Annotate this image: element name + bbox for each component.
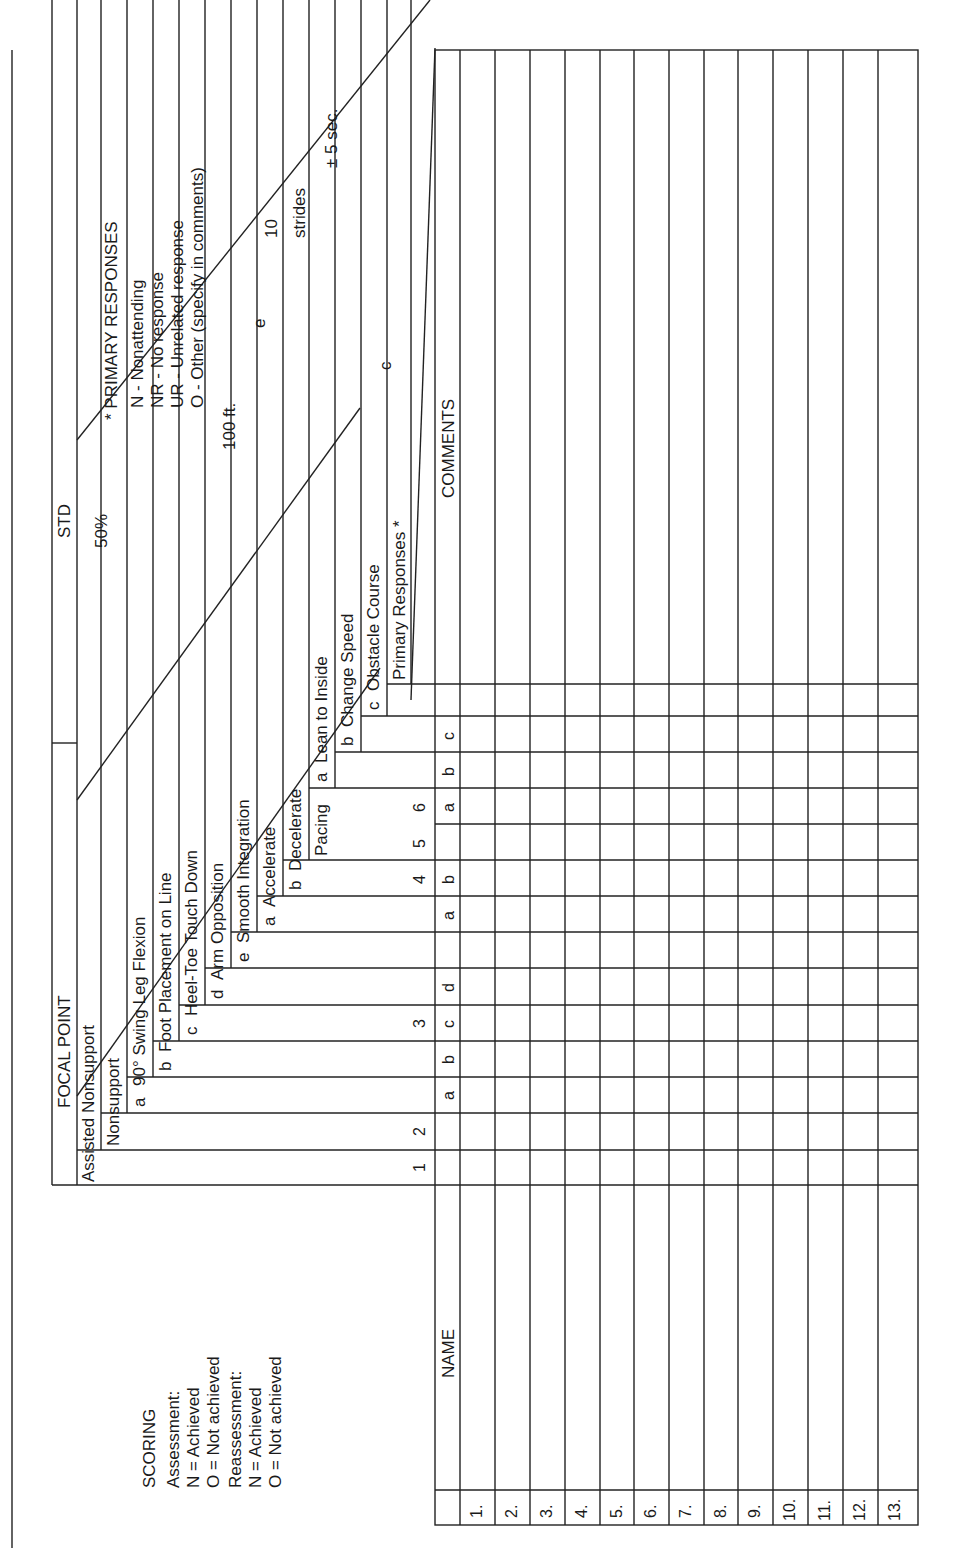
row-num-11: 11. xyxy=(815,1500,835,1521)
focal-5-pacing: Pacing xyxy=(312,804,332,856)
col-num-4: 4 xyxy=(410,875,430,884)
sub-6c: c xyxy=(439,732,459,740)
focal-4a-letter: a xyxy=(260,917,280,926)
focal-3b-letter: b xyxy=(156,1062,176,1071)
form-rules xyxy=(0,0,957,1548)
sub-3a: a xyxy=(439,1091,459,1100)
focal-3e: Smooth Integration xyxy=(234,799,254,943)
col-num-6: 6 xyxy=(410,803,430,812)
focal-3d-letter: d xyxy=(208,990,228,999)
comments-column-header: COMMENTS xyxy=(439,399,459,498)
row-num-2: 2. xyxy=(502,1505,522,1518)
std-ten: 10 xyxy=(262,219,282,238)
row-num-3: 3. xyxy=(537,1505,557,1518)
std-fifty-percent: 50% xyxy=(92,514,112,548)
assessment-not-achieved: O = Not achieved xyxy=(204,1356,224,1488)
focal-6c-letter: c xyxy=(364,702,384,711)
assessment-achieved: N = Achieved xyxy=(184,1387,204,1488)
row-num-13: 13. xyxy=(885,1499,905,1521)
reassessment-not-achieved: O = Not achieved xyxy=(266,1356,286,1488)
focal-3a: 90° Swing Leg Flexion xyxy=(130,917,150,1086)
row-num-12: 12. xyxy=(850,1499,870,1521)
focal-point-header: FOCAL POINT xyxy=(55,995,75,1108)
row-num-10: 10. xyxy=(780,1499,800,1521)
row-num-9: 9. xyxy=(745,1505,765,1518)
focal-6a: Lean to Inside xyxy=(312,656,332,763)
std-header: STD xyxy=(55,504,75,538)
row-num-1: 1. xyxy=(467,1505,487,1518)
focal-3e-letter: e xyxy=(234,953,254,962)
walking-assessment-form: SCORING Assessment: N = Achieved O = Not… xyxy=(0,0,957,1548)
primary-response-o: O - Other (specify in comments) xyxy=(188,167,208,408)
primary-response-ur: UR - Unrelated response xyxy=(168,220,188,408)
sub-4a: a xyxy=(439,911,459,920)
sub-3c: c xyxy=(439,1020,459,1028)
primary-response-nr: NR - No response xyxy=(148,272,168,408)
focal-6b: Change Speed xyxy=(338,614,358,727)
std-strides: strides xyxy=(290,188,310,238)
primary-responses-title: * PRIMARY RESPONSES xyxy=(102,221,122,420)
col-num-2: 2 xyxy=(410,1127,430,1136)
row-num-8: 8. xyxy=(711,1505,731,1518)
focal-4a: Accelerate xyxy=(260,827,280,907)
focal-6a-letter: a xyxy=(312,773,332,782)
assessment-label: Assessment: xyxy=(164,1391,184,1488)
col-num-3: 3 xyxy=(410,1019,430,1028)
focal-3c: Heel-Toe Touch Down xyxy=(182,850,202,1016)
row-num-5: 5. xyxy=(607,1505,627,1518)
focal-nonsupport: Nonsupport xyxy=(104,1058,124,1146)
sub-3d: d xyxy=(439,983,459,992)
focal-4b: Decelerate xyxy=(286,789,306,871)
sub-3b: b xyxy=(439,1055,459,1064)
focal-primary-responses: Primary Responses * xyxy=(390,520,410,680)
reassessment-label: Reassessment: xyxy=(226,1371,246,1488)
focal-assisted-nonsupport: Assisted Nonsupport xyxy=(79,1025,99,1182)
col-num-5: 5 xyxy=(410,839,430,848)
std-e-letter: e xyxy=(250,319,270,328)
focal-4b-letter: b xyxy=(286,881,306,890)
reassessment-achieved: N = Achieved xyxy=(246,1387,266,1488)
focal-6b-letter: b xyxy=(338,737,358,746)
focal-3b: Foot Placement on Line xyxy=(156,872,176,1052)
std-c-letter: c xyxy=(376,362,396,371)
std-plus-minus: ± 5 sec. xyxy=(322,109,342,168)
focal-3c-letter: c xyxy=(182,1027,202,1036)
col-num-1: 1 xyxy=(410,1163,430,1172)
sub-6b: b xyxy=(439,767,459,776)
focal-6c: Obstacle Course xyxy=(364,564,384,691)
row-num-6: 6. xyxy=(641,1505,661,1518)
focal-3a-letter: a xyxy=(130,1098,150,1107)
sub-6a: a xyxy=(439,803,459,812)
name-column-header: NAME xyxy=(439,1329,459,1378)
scoring-title: SCORING xyxy=(140,1409,160,1488)
primary-response-n: N - Nonattending xyxy=(128,279,148,408)
std-hundred-ft: 100 ft. xyxy=(220,403,240,450)
focal-3d: Arm Opposition xyxy=(208,863,228,980)
sub-4b: b xyxy=(439,875,459,884)
row-num-4: 4. xyxy=(572,1505,592,1518)
row-num-7: 7. xyxy=(676,1505,696,1518)
